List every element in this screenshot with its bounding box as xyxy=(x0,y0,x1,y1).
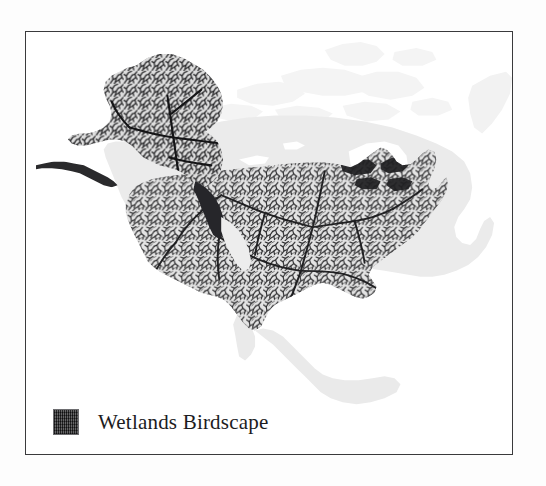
map-legend: Wetlands Birdscape xyxy=(53,409,268,435)
map-surface xyxy=(26,32,512,454)
map-frame: Wetlands Birdscape xyxy=(25,31,513,455)
figure-canvas: Wetlands Birdscape xyxy=(0,0,546,486)
north-america-map xyxy=(26,32,512,454)
wetlands-birdscape-swatch xyxy=(53,409,79,435)
legend-label: Wetlands Birdscape xyxy=(98,412,268,433)
